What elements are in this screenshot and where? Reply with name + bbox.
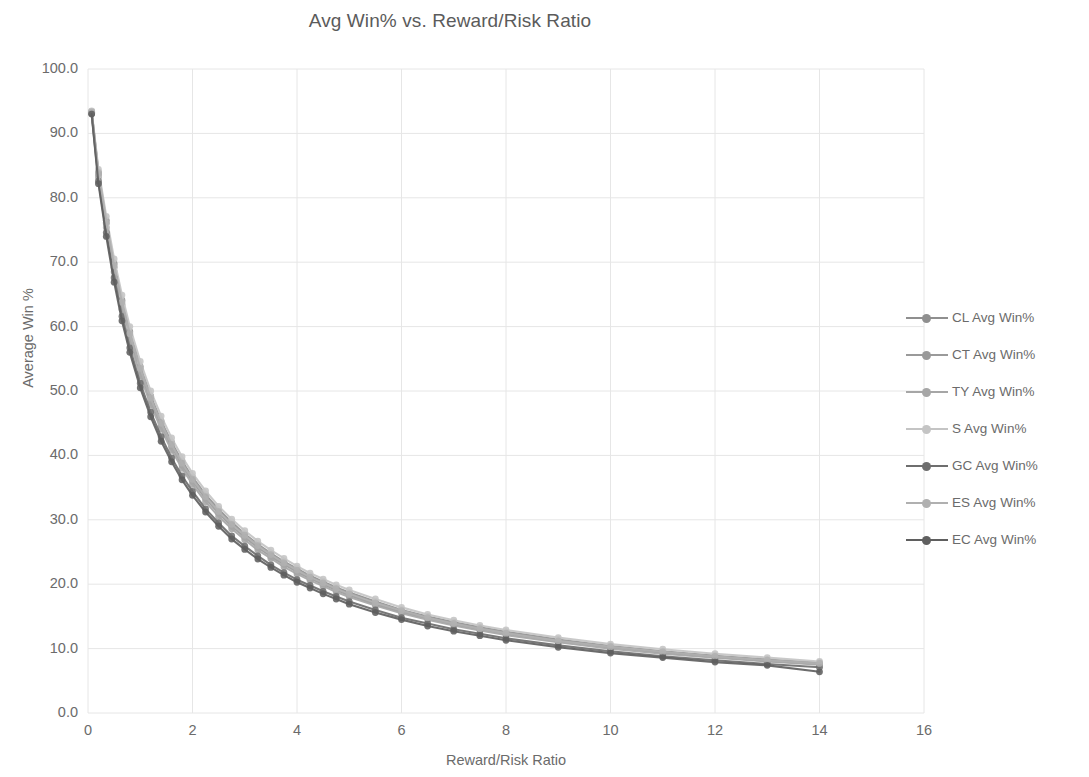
legend-item-label: CL Avg Win% xyxy=(952,310,1034,325)
y-axis-tick-label: 100.0 xyxy=(16,60,78,76)
legend-item[interactable]: ES Avg Win% xyxy=(906,484,1086,521)
legend-marker-icon xyxy=(906,348,948,362)
x-axis-tick-label: 16 xyxy=(904,722,944,738)
x-axis-tick-label: 6 xyxy=(382,722,422,738)
chart-series xyxy=(88,110,823,671)
legend-item[interactable]: TY Avg Win% xyxy=(906,373,1086,410)
x-axis-tick-label: 10 xyxy=(591,722,631,738)
x-axis-tick-label: 0 xyxy=(68,722,108,738)
y-axis-tick-label: 50.0 xyxy=(16,382,78,398)
legend-item[interactable]: CL Avg Win% xyxy=(906,299,1086,336)
legend-marker-icon xyxy=(906,422,948,436)
y-axis-tick-label: 10.0 xyxy=(16,640,78,656)
legend-item[interactable]: EC Avg Win% xyxy=(906,521,1086,558)
plot-area xyxy=(88,69,924,713)
chart-series xyxy=(88,109,823,667)
x-axis-tick-label: 14 xyxy=(800,722,840,738)
legend-item[interactable]: CT Avg Win% xyxy=(906,336,1086,373)
chart-series xyxy=(88,107,823,664)
x-axis-tick-label: 12 xyxy=(695,722,735,738)
chart-series-layer xyxy=(88,69,924,713)
legend-marker-icon xyxy=(906,496,948,510)
legend-item[interactable]: GC Avg Win% xyxy=(906,447,1086,484)
y-axis-tick-label: 70.0 xyxy=(16,253,78,269)
legend-item-label: GC Avg Win% xyxy=(952,458,1038,473)
x-axis-tick-label: 8 xyxy=(486,722,526,738)
legend-marker-icon xyxy=(906,385,948,399)
y-axis-tick-label: 60.0 xyxy=(16,318,78,334)
chart-series xyxy=(88,109,823,666)
y-axis-tick-label: 80.0 xyxy=(16,189,78,205)
legend-item[interactable]: S Avg Win% xyxy=(906,410,1086,447)
chart-series xyxy=(88,108,823,667)
legend-marker-icon xyxy=(906,311,948,325)
chart-series xyxy=(88,111,823,676)
y-axis-tick-label: 20.0 xyxy=(16,575,78,591)
chart-title: Avg Win% vs. Reward/Risk Ratio xyxy=(0,10,900,32)
x-axis-tick-label: 2 xyxy=(173,722,213,738)
legend-marker-icon xyxy=(906,459,948,473)
legend-item-label: EC Avg Win% xyxy=(952,532,1036,547)
y-axis-tick-label: 40.0 xyxy=(16,446,78,462)
legend-marker-icon xyxy=(906,533,948,547)
x-axis-tick-label: 4 xyxy=(277,722,317,738)
y-axis-tick-label: 90.0 xyxy=(16,124,78,140)
y-axis-tick-label: 0.0 xyxy=(16,704,78,720)
legend-item-label: ES Avg Win% xyxy=(952,495,1036,510)
x-axis-title: Reward/Risk Ratio xyxy=(88,752,924,768)
chart-container: Avg Win% vs. Reward/Risk Ratio Average W… xyxy=(0,0,1089,777)
chart-series xyxy=(88,109,823,668)
chart-legend: CL Avg Win%CT Avg Win%TY Avg Win%S Avg W… xyxy=(906,299,1086,558)
y-axis-tick-label: 30.0 xyxy=(16,511,78,527)
legend-item-label: TY Avg Win% xyxy=(952,384,1035,399)
legend-item-label: CT Avg Win% xyxy=(952,347,1035,362)
legend-item-label: S Avg Win% xyxy=(952,421,1027,436)
